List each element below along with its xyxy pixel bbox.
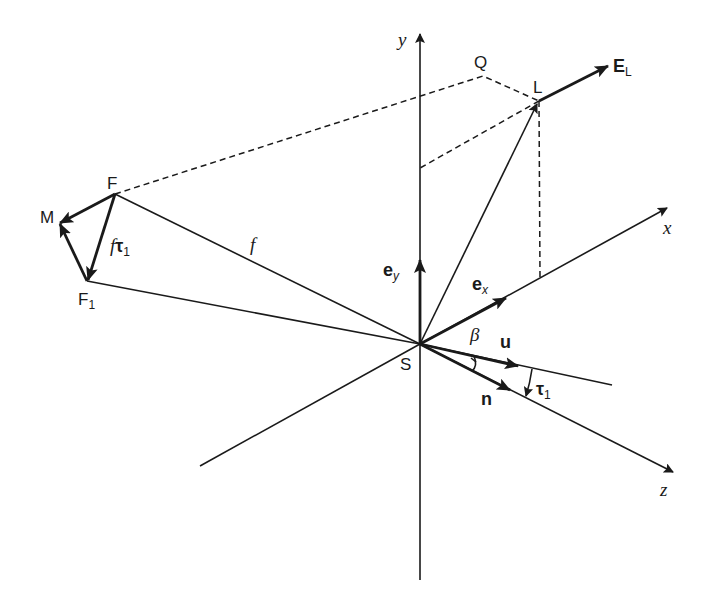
z-axis <box>200 344 673 472</box>
label-e-x-sub: x <box>481 283 489 297</box>
label-L: L <box>533 78 542 97</box>
vector-n <box>420 344 510 390</box>
line-S-F1 <box>87 281 420 344</box>
label-u: u <box>500 332 511 352</box>
label-M: M <box>40 208 54 227</box>
label-F1-main: F <box>78 290 88 309</box>
label-e-y: ey <box>383 260 400 283</box>
label-E-L: EL <box>613 56 632 79</box>
label-tau1-main: τ <box>536 379 544 399</box>
vector-F1-M <box>60 224 87 281</box>
vector-e-x <box>420 298 506 344</box>
dashed-F-Q-L <box>115 76 539 194</box>
label-F1-sub: 1 <box>88 298 95 312</box>
label-tau1-sub: 1 <box>544 388 551 402</box>
label-e-x-main: e <box>472 274 482 294</box>
label-beta: β <box>469 324 480 345</box>
vector-S-L <box>420 104 537 344</box>
label-e-y-sub: y <box>392 269 400 283</box>
label-f-tau1-sub: 1 <box>123 245 130 259</box>
label-Q: Q <box>474 53 487 72</box>
label-e-y-main: e <box>383 260 393 280</box>
vector-E-L <box>539 66 608 101</box>
vector-diagram: y x z Q L F M F1 S EL ey ex u n τ1 fτ1 f… <box>0 0 711 614</box>
label-F1: F1 <box>78 290 95 312</box>
label-n: n <box>481 389 492 409</box>
label-f-tau1-tau: τ <box>115 236 123 256</box>
label-z-axis: z <box>659 479 668 500</box>
label-y-axis: y <box>396 29 407 50</box>
label-f: f <box>250 234 258 255</box>
label-S: S <box>400 355 411 374</box>
label-x-axis: x <box>662 217 672 238</box>
tau1-arrow <box>526 369 532 396</box>
line-S-F <box>115 194 420 344</box>
label-f-tau1: fτ1 <box>110 235 130 259</box>
dashed-L-xaxis <box>539 101 540 277</box>
label-F: F <box>107 174 117 193</box>
label-E-L-sub: L <box>625 65 632 79</box>
label-e-x: ex <box>472 274 489 297</box>
label-E-L-main: E <box>613 56 625 76</box>
dashed-L-yaxis <box>420 101 539 168</box>
label-tau1: τ1 <box>536 379 551 402</box>
